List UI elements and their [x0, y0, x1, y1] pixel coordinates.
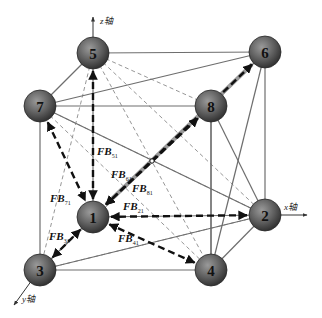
- node-label: 1: [89, 210, 97, 226]
- node-label: 8: [207, 99, 215, 115]
- force-label-21: FB21: [122, 200, 144, 214]
- node-1: 1: [77, 201, 109, 233]
- force-label-71: FB71: [49, 192, 71, 206]
- edge-6-4: [211, 52, 265, 270]
- force-label-61: FB61: [110, 168, 132, 182]
- node-label: 4: [207, 263, 215, 279]
- force-label-51: FB51: [96, 145, 118, 159]
- node-3: 3: [24, 254, 56, 286]
- x-axis-label: x轴: [283, 202, 298, 212]
- y-axis-label: y轴: [21, 294, 36, 304]
- edge-5-6: [93, 52, 265, 53]
- node-label: 2: [261, 208, 269, 224]
- node-label: 7: [36, 99, 44, 115]
- z-axis-label: z轴: [99, 16, 114, 26]
- node-4: 4: [195, 254, 227, 286]
- force-label-81: FB81: [131, 182, 153, 196]
- force-label-31: FB31: [48, 230, 70, 244]
- node-label: 5: [89, 46, 97, 62]
- node-7: 7: [24, 90, 56, 122]
- diagonal-midpoint-marker: [150, 159, 154, 163]
- node-2: 2: [249, 199, 281, 231]
- node-label: 3: [36, 263, 44, 279]
- node-label: 6: [261, 45, 269, 61]
- node-8: 8: [195, 90, 227, 122]
- force-label-41: FB41: [117, 232, 139, 246]
- cube-force-diagram: z轴 x轴 y轴 FB51FB71FB61FB81FB21FB41FB31 12…: [0, 0, 322, 318]
- node-5: 5: [77, 37, 109, 69]
- force-arrow-71: [48, 122, 85, 201]
- node-6: 6: [249, 36, 281, 68]
- edge-7-6: [40, 52, 265, 106]
